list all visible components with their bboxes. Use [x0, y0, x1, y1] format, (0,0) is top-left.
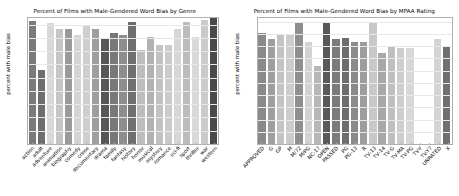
y-tick-label: 40 — [257, 92, 258, 98]
x-tick-mark — [50, 143, 51, 145]
bar-slot — [46, 18, 55, 144]
bar-action — [29, 21, 36, 144]
gridline — [258, 132, 452, 133]
bar-passed — [332, 39, 339, 144]
y-tick-label: 10 — [257, 129, 258, 135]
bar-slot — [182, 18, 191, 144]
bar-romance — [165, 45, 172, 144]
bar-slot — [91, 18, 100, 144]
bar-slot — [82, 18, 91, 144]
y-tick-label: 50 — [27, 75, 28, 81]
gridline — [258, 95, 452, 96]
gridline — [28, 38, 218, 39]
bar-slot — [322, 18, 331, 144]
y-tick-label: 60 — [27, 61, 28, 67]
y-tick-label: 20 — [257, 117, 258, 123]
gridline — [258, 46, 452, 47]
y-tick-label: 30 — [257, 104, 258, 110]
gridline — [28, 91, 218, 92]
bar-slot — [109, 18, 118, 144]
x-tick-mark — [392, 143, 393, 145]
x-tick-mark — [41, 143, 42, 145]
bar-biography — [65, 29, 72, 144]
gridline — [258, 120, 452, 121]
bar-adult — [38, 70, 45, 144]
bar-slot — [28, 18, 37, 144]
bar-slot — [350, 18, 359, 144]
bar-slot — [146, 18, 155, 144]
gridline — [258, 71, 452, 72]
x-tick-mark — [114, 143, 115, 145]
bar-gp — [277, 34, 284, 144]
y-tick-label: 50 — [257, 80, 258, 86]
bar-pg-13 — [351, 42, 358, 144]
bar-slot — [137, 18, 146, 144]
bar-slot — [368, 18, 377, 144]
bar-series-mpaa — [258, 18, 452, 144]
bar-m — [286, 34, 293, 144]
x-tick-mark — [448, 143, 449, 145]
y-axis-label-text: percent with male bias — [5, 33, 11, 95]
bar-slot — [359, 18, 368, 144]
plot-area-genre: 0102030405060708090 — [27, 17, 219, 145]
bar-slot — [173, 18, 182, 144]
x-tick-mark — [169, 143, 170, 145]
bar-animation — [56, 29, 63, 144]
x-tick-mark — [96, 143, 97, 145]
y-tick-label: 100 — [257, 19, 258, 25]
bar-slot — [304, 18, 313, 144]
bar-slot — [55, 18, 64, 144]
x-tick-mark — [178, 143, 179, 145]
bar-slot — [433, 18, 442, 144]
x-tick-mark — [32, 143, 33, 145]
bar-slot — [200, 18, 209, 144]
y-tick-label: 60 — [257, 68, 258, 74]
bar-slot — [424, 18, 433, 144]
bar-slot — [155, 18, 164, 144]
bar-slot — [64, 18, 73, 144]
gridline — [28, 117, 218, 118]
y-tick-label: 70 — [257, 55, 258, 61]
gridline — [258, 34, 452, 35]
bar-slot — [258, 18, 267, 144]
bar-history — [128, 22, 135, 144]
bar-m-pg — [305, 42, 312, 144]
gridline — [28, 131, 218, 132]
bar-slot — [331, 18, 340, 144]
x-tick-mark — [336, 143, 337, 145]
bar-sport — [183, 22, 190, 144]
gridline — [28, 64, 218, 65]
y-axis-label-mpaa: percent with male bias — [233, 0, 242, 128]
bar-slot — [414, 18, 423, 144]
bar-slot — [73, 18, 82, 144]
bar-slot — [442, 18, 451, 144]
bar-slot — [313, 18, 322, 144]
chart-title-genre: Percent of Films with Male-Gendered Word… — [0, 8, 230, 14]
bar-slot — [378, 18, 387, 144]
bar-adventure — [47, 23, 54, 144]
y-tick-label: 80 — [257, 43, 258, 49]
bar-pg — [342, 38, 349, 144]
bar-slot — [100, 18, 109, 144]
bar-slot — [209, 18, 218, 144]
gridline — [28, 104, 218, 105]
bar-tv-14 — [378, 53, 385, 144]
bar-slot — [128, 18, 137, 144]
y-tick-label: 90 — [257, 31, 258, 37]
bar-slot — [37, 18, 46, 144]
plot-area-mpaa: 0102030405060708090100 — [257, 17, 453, 145]
x-tick-mark — [280, 143, 281, 145]
bar-slot — [267, 18, 276, 144]
y-tick-label: 30 — [27, 101, 28, 107]
bar-crime — [83, 26, 90, 144]
bar-slot — [164, 18, 173, 144]
x-tick-mark — [308, 143, 309, 145]
x-tick-mark — [105, 143, 106, 145]
bar-slot — [285, 18, 294, 144]
bar-approved — [258, 33, 265, 144]
y-tick-label: 40 — [27, 88, 28, 94]
chart-panel-mpaa: Percent of Films with Male-Gendered Word… — [230, 0, 459, 196]
gridline — [258, 83, 452, 84]
x-tick-mark — [160, 143, 161, 145]
x-axis-ticks-mpaa: APPROVEDGGPMM/72M/PGNC-17OPENPASSEDPGPG-… — [257, 145, 453, 195]
